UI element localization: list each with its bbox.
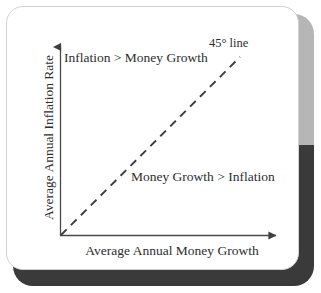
y-axis-label: Average Annual Inflation Rate [42, 42, 57, 232]
figure-container: Inflation > Money Growth Money Growth > … [0, 0, 321, 293]
region-label-money-growth-greater: Money Growth > Inflation [131, 170, 275, 185]
region-label-inflation-greater: Inflation > Money Growth [64, 51, 208, 66]
x-axis-label: Average Annual Money Growth [60, 244, 284, 259]
forty-five-degree-line-label: 45° line [209, 37, 248, 51]
